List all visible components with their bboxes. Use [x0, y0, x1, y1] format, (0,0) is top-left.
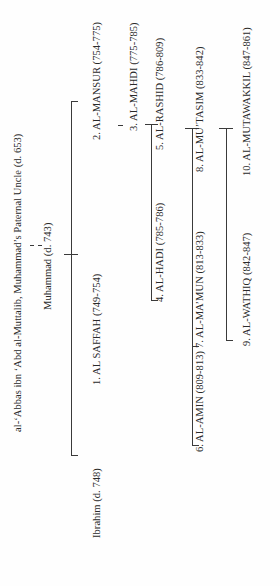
- person-mutasim: 8. AL-MU’TASIM (833-842): [194, 47, 206, 172]
- person-mamun: 7. AL-MA’MUN (813-833): [194, 231, 206, 348]
- father-label: Muhammad (d. 743): [42, 223, 54, 310]
- cap-ibrahim: [71, 455, 78, 456]
- bracket-mahdi-children: [151, 124, 152, 301]
- bracket-mutasim-children: [226, 128, 227, 341]
- person-wathiq: 9. AL-WATHIQ (842-847): [241, 233, 253, 346]
- tick-muhammad: [64, 254, 78, 255]
- cap-mansur: [71, 101, 78, 102]
- person-rashid: 5. AL-RASHID (786-809): [154, 38, 166, 150]
- family-tree-diagram: al-‘Abbas ibn ‘Abd al-Muttalib, Muhammad…: [0, 0, 280, 586]
- bracket-rashid-children: [192, 128, 193, 446]
- connector-mansur-mahdi: [118, 125, 123, 126]
- person-amin: 6. AL-AMIN (809-813): [194, 351, 206, 452]
- bracket-muhammad-children: [71, 101, 72, 456]
- person-hadi: 4. AL-HADI (785-786): [154, 203, 166, 302]
- cap-wathiq: [226, 340, 233, 341]
- person-saffah: 1. AL SAFFAH (749-754): [91, 274, 103, 385]
- person-mahdi: 3. AL-MAHDI (775-785): [128, 22, 140, 131]
- descent-dash-1: [30, 245, 34, 246]
- person-ibrahim: Ibrahim (d. 748): [91, 468, 103, 538]
- person-mansur: 2. AL-MANSUR (754-775): [91, 22, 103, 140]
- root-ancestor-label: al-‘Abbas ibn ‘Abd al-Muttalib, Muhammad…: [12, 134, 24, 432]
- person-mutawakkil: 10. AL-MUTAWAKKIL (847-861): [241, 27, 253, 176]
- tick-mutasim: [219, 128, 233, 129]
